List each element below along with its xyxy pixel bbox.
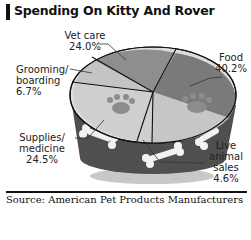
label-live-animal-sales: Live animal sales 4.6% (206, 140, 246, 184)
label-supplies: Supplies/ medicine 24.5% (14, 132, 70, 165)
source-divider (6, 191, 247, 193)
label-vet-care: Vet care 24.0% (60, 30, 110, 52)
label-food: Food 40.2% (213, 52, 249, 74)
source-note: Source: American Pet Products Manufactur… (6, 194, 243, 203)
label-grooming: Grooming/ boarding 6.7% (16, 64, 71, 97)
